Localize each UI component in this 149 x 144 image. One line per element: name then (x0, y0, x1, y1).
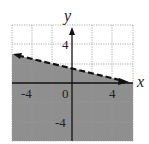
tick-label-x-neg4: -4 (21, 86, 32, 101)
inequality-graph: y x 4 -4 0 4 -4 (0, 0, 149, 144)
tick-label-y-neg4: -4 (55, 115, 66, 130)
tick-label-y-4: 4 (62, 37, 69, 52)
x-axis-label: x (136, 73, 144, 90)
y-axis-label: y (62, 7, 72, 25)
tick-label-x-4: 4 (109, 86, 116, 101)
tick-label-origin: 0 (62, 86, 69, 101)
